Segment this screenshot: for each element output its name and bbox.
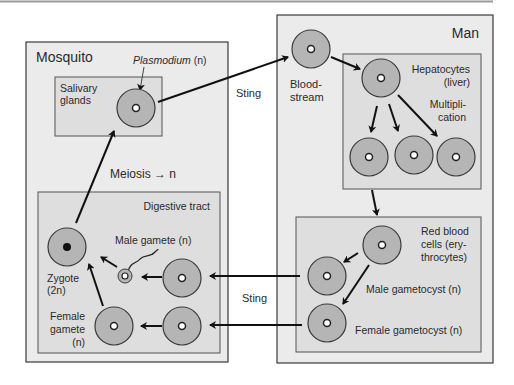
man-title: Man [452,25,479,41]
salivary-label-2: glands [60,94,91,106]
merozoite-cell-2 [395,136,433,174]
female-gametocyst-cell [308,304,346,342]
digestive-tract-title: Digestive tract [143,200,210,212]
hepatocytes-label-1: Hepatocytes [412,63,470,75]
sting-label-top: Sting [236,87,261,99]
zygote-label-2: (2n) [47,284,66,296]
plasmodium-name: Plasmodium [133,54,191,66]
female-gamete-label-2: gamete [50,323,85,335]
man-box: Man Blood- stream Hepatocytes (liver) Mu… [277,15,493,363]
hepatocytes-box: Hepatocytes (liver) Multipli- cation [343,54,481,189]
female-gamete-label-1: Female [50,310,85,322]
zygote-cell [48,228,86,266]
bloodstream-label-2: stream [290,91,324,103]
plasmodium-life-cycle-diagram: Mosquito Salivary glands Plasmodium (n) … [0,0,514,385]
multiplication-label-1: Multipli- [430,98,467,110]
rbc-label-2: cells (ery- [421,238,467,250]
rbc-label-3: throcytes) [421,251,467,263]
red-blood-cells-box: Red blood cells (ery- throcytes) Male ga… [296,217,481,352]
zygote-label-1: Zygote [47,272,79,284]
female-gametocyst-label: Female gametocyst (n) [355,324,462,336]
mosquito-title: Mosquito [36,49,93,65]
hepatocytes-label-2: (liver) [444,76,470,88]
bloodstream-cell [292,30,330,68]
mosquito-box: Mosquito Salivary glands Plasmodium (n) … [26,42,228,362]
salivary-label-1: Salivary [60,82,98,94]
erythrocyte-cell [363,226,401,264]
female-gamete-cell [95,307,133,345]
male-gametocyst-label: Male gametocyst (n) [366,283,461,295]
male-gamete-label: Male gamete (n) [115,234,191,246]
male-gametocyte-mosquito-cell [163,259,201,297]
female-gametocyte-mosquito-cell [163,307,201,345]
digestive-tract-box: Digestive tract Zygote (2n) Male gamete … [38,192,220,353]
plasmodium-ploidy: (n) [191,54,207,66]
merozoite-cell-3 [437,138,475,176]
female-gamete-label-3: (n) [72,336,85,348]
liver-cell [362,59,400,97]
plasmodium-label: Plasmodium (n) [133,54,207,66]
merozoite-cell-1 [350,138,388,176]
bloodstream-label-1: Blood- [290,78,322,90]
meiosis-label: Meiosis → n [110,167,176,181]
rbc-label-1: Red blood [421,225,469,237]
sporozoite-cell [117,89,155,127]
male-gametocyst-cell [308,257,346,295]
sting-label-bottom: Sting [242,292,267,304]
multiplication-label-2: cation [438,111,466,123]
